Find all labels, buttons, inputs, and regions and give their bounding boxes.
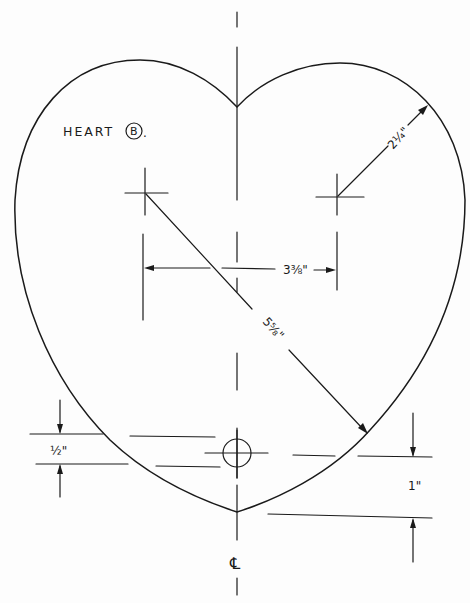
title-period: .: [143, 126, 147, 140]
tip-offset-label: 1": [408, 479, 421, 493]
heart-pattern-drawing: 3⅜" 5⅝" 2¼" ½": [0, 0, 470, 603]
spacing-label: 3⅜": [283, 263, 308, 277]
spacing-dimension: [143, 232, 337, 320]
variant-badge: B: [130, 125, 138, 138]
centerline-symbol: ℄: [229, 554, 241, 573]
diagonal-label: 5⅝": [260, 315, 287, 343]
hole-projection-lines: [30, 434, 432, 518]
left-lobe-center-mark: [125, 168, 168, 215]
hole-offset-label: ½": [50, 444, 67, 458]
drawing-title: HEART: [63, 124, 114, 139]
radius-label: 2¼": [385, 124, 412, 152]
radius-dimension: [338, 105, 428, 196]
pattern-sheet: 3⅜" 5⅝" 2¼" ½": [0, 0, 470, 603]
diagonal-dimension: [146, 194, 368, 434]
